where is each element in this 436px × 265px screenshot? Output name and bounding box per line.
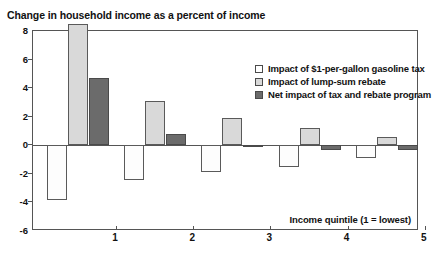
plot-surface: [33, 31, 417, 229]
bar-rebate-q2: [145, 101, 165, 145]
y-axis-tick-label: -6: [20, 225, 28, 236]
x-axis-tick-mark: [116, 226, 117, 230]
x-axis-tick-mark: [348, 226, 349, 230]
y-axis-tick-label: 8: [23, 25, 28, 36]
x-axis-tick-label: 2: [189, 232, 195, 243]
plot-area: Income quintile (1 = lowest) Impact of $…: [32, 30, 418, 230]
bar-rebate-q4: [300, 128, 320, 145]
bar-net-q5: [398, 145, 418, 149]
bar-net-q1: [89, 78, 109, 145]
x-axis-tick-mark: [270, 226, 271, 230]
x-axis-tick-label: 4: [344, 232, 350, 243]
legend-item-net: Net impact of tax and rebate program: [255, 88, 436, 101]
bar-tax-q1: [47, 145, 67, 199]
bar-tax-q2: [124, 145, 144, 179]
bar-rebate-q1: [68, 24, 88, 145]
x-axis-labels: 12345: [32, 232, 418, 250]
page-title: Change in household income as a percent …: [7, 9, 265, 21]
y-axis-tick-label: -2: [20, 167, 28, 178]
y-axis: -6-4-202468: [2, 30, 28, 230]
bar-rebate-q3: [222, 118, 242, 145]
legend-item-rebate: Impact of lump-sum rebate: [255, 75, 436, 88]
legend-swatch-tax-icon: [255, 65, 263, 73]
x-axis-tick-label: 5: [421, 232, 427, 243]
bar-rebate-q5: [377, 137, 397, 146]
bar-tax-q3: [201, 145, 221, 172]
bar-net-q2: [166, 134, 186, 145]
x-axis-annotation: Income quintile (1 = lowest): [289, 214, 411, 225]
x-axis-tick-label: 3: [267, 232, 273, 243]
bar-tax-q4: [279, 145, 299, 166]
x-axis-tick-mark: [425, 226, 426, 230]
legend-label-tax: Impact of $1-per-gallon gasoline tax: [268, 63, 425, 74]
legend-label-rebate: Impact of lump-sum rebate: [268, 76, 386, 87]
legend-swatch-rebate-icon: [255, 78, 263, 86]
bar-net-q4: [321, 145, 341, 149]
legend-swatch-net-icon: [255, 91, 263, 99]
x-axis-tick-label: 1: [112, 232, 118, 243]
legend-item-tax: Impact of $1-per-gallon gasoline tax: [255, 62, 436, 75]
x-axis-tick-mark: [193, 226, 194, 230]
chart-legend: Impact of $1-per-gallon gasoline tax Imp…: [255, 62, 436, 101]
y-axis-tick-label: -4: [20, 196, 28, 207]
bar-tax-q5: [356, 145, 376, 158]
legend-label-net: Net impact of tax and rebate program: [268, 89, 431, 100]
bar-net-q3: [243, 145, 263, 147]
